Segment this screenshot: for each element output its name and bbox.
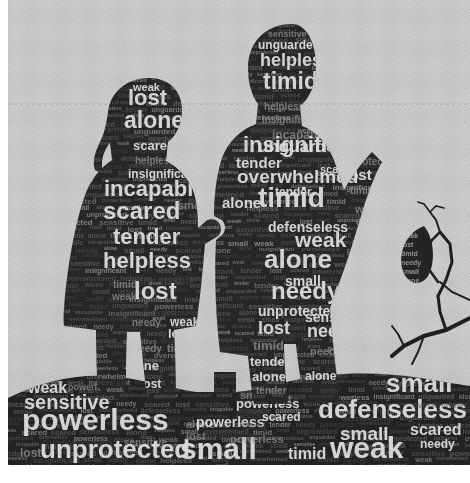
artwork-root [0, 0, 470, 483]
word-cloud-artwork-canvas [0, 0, 470, 483]
